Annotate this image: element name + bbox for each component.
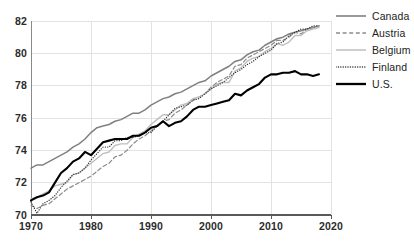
y-tick-82: 82 — [5, 15, 27, 27]
y-tick-70: 70 — [5, 209, 27, 221]
y-tick-74: 74 — [5, 144, 27, 156]
legend-label-austria: Austria — [372, 27, 405, 39]
y-tick-76: 76 — [5, 112, 27, 124]
legend-label-us: U.S. — [372, 78, 393, 90]
x-tick-2000: 2000 — [194, 220, 228, 232]
legend-line-solid-gray-icon — [336, 10, 366, 22]
y-tick-78: 78 — [5, 79, 27, 91]
x-tick-2010: 2010 — [254, 220, 288, 232]
legend-item-us: U.S. — [336, 76, 414, 91]
legend-label-canada: Canada — [372, 10, 409, 22]
x-tick-1990: 1990 — [134, 220, 168, 232]
legend-line-dotted-dark-icon — [336, 61, 366, 73]
legend-line-dashed-gray-icon — [336, 27, 366, 39]
x-tick-1980: 1980 — [74, 220, 108, 232]
y-tick-72: 72 — [5, 176, 27, 188]
legend-label-finland: Finland — [372, 61, 407, 73]
chart-legend: Canada Austria Belgium Finland U.S. — [336, 8, 414, 93]
legend-line-solid-black-icon — [336, 78, 366, 90]
life-expectancy-line-chart: 82 80 78 76 74 72 70 1970 1980 1990 2000… — [0, 0, 414, 243]
y-tick-80: 80 — [5, 47, 27, 59]
legend-label-belgium: Belgium — [372, 44, 411, 56]
legend-line-solid-lightgray-icon — [336, 44, 366, 56]
legend-item-belgium: Belgium — [336, 42, 414, 57]
legend-item-canada: Canada — [336, 8, 414, 23]
x-tick-1970: 1970 — [14, 220, 48, 232]
legend-item-finland: Finland — [336, 59, 414, 74]
legend-item-austria: Austria — [336, 25, 414, 40]
x-tick-2020: 2020 — [314, 220, 348, 232]
